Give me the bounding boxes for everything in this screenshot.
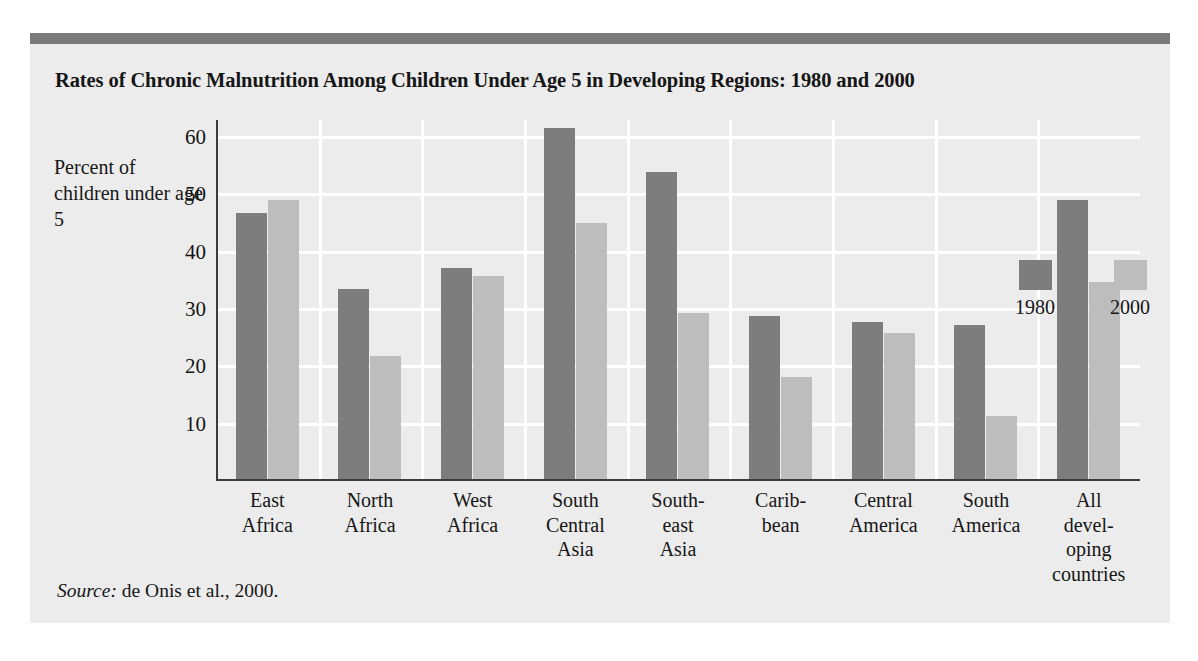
x-axis-category-label-line: All [1037,488,1140,513]
bar-2000 [268,200,299,479]
legend-label: 1980 [995,296,1075,319]
bar-1980 [646,172,677,479]
x-axis-category-label-line: East [216,488,319,513]
bar-1980 [338,289,369,479]
y-axis-tick-label: 10 [162,411,206,436]
x-axis-category-label-line: Asia [627,537,730,562]
source-note: Source: de Onis et al., 2000. [57,580,278,602]
y-axis-tick-label: 40 [162,239,206,264]
bar-group [421,120,524,479]
bar-2000 [370,356,401,479]
legend-entry: 2000 [1090,260,1170,319]
x-axis-category-label-line: South [524,488,627,513]
x-axis-category-label-line: South- [627,488,730,513]
light-gray-swatch [1114,260,1147,290]
x-axis-category-label: NorthAfrica [319,488,422,537]
chart-title: Rates of Chronic Malnutrition Among Chil… [55,69,915,92]
bar-2000 [678,313,709,479]
y-axis-tick-labels: 102030405060 [160,120,206,481]
chart-legend: 19802000 [995,260,1185,330]
source-label: Source: [57,580,117,601]
x-axis-category-label-line: West [421,488,524,513]
y-axis-tick-label: 60 [162,125,206,150]
bar-group [627,120,730,479]
bar-group [524,120,627,479]
x-axis-category-label: Alldevel-opingcountries [1037,488,1140,586]
x-axis-category-label-line: South [935,488,1038,513]
x-axis-category-label: SouthAmerica [935,488,1038,537]
x-axis-category-label-line: Carib- [729,488,832,513]
x-axis-category-label-line: Asia [524,537,627,562]
x-axis-category-label: Carib-bean [729,488,832,537]
bar-2000 [781,377,812,479]
y-axis-tick-label: 20 [162,354,206,379]
bar-1980 [852,322,883,479]
x-axis-category-label-line: Africa [319,513,422,538]
dark-gray-swatch [1019,260,1052,290]
x-axis-category-label-line: east [627,513,730,538]
bar-1980 [1057,200,1088,479]
figure-panel: Rates of Chronic Malnutrition Among Chil… [30,44,1170,623]
x-axis-category-label-line: countries [1037,562,1140,587]
bar-group [729,120,832,479]
x-axis-category-label: WestAfrica [421,488,524,537]
x-axis-category-label-line: devel- [1037,513,1140,538]
x-axis-category-label: EastAfrica [216,488,319,537]
x-axis-category-label-line: Central [832,488,935,513]
bar-2000 [576,223,607,479]
bar-group [319,120,422,479]
legend-entry: 1980 [995,260,1075,319]
x-axis-category-label-line: America [935,513,1038,538]
bar-group [832,120,935,479]
x-axis-category-label-line: North [319,488,422,513]
figure-top-rule [30,33,1170,44]
x-axis-category-label-line: oping [1037,537,1140,562]
bar-1980 [749,316,780,479]
x-axis-category-label-line: America [832,513,935,538]
x-axis-category-label-line: bean [729,513,832,538]
bar-1980 [954,325,985,479]
plot-area: 102030405060 19802000 EastAfricaNorthAfr… [216,120,1140,481]
x-axis-category-label-line: Central [524,513,627,538]
bar-2000 [986,416,1017,479]
legend-label: 2000 [1090,296,1170,319]
x-axis-category-label: CentralAmerica [832,488,935,537]
bar-1980 [236,213,267,479]
bar-group [216,120,319,479]
x-axis-category-label: South-eastAsia [627,488,730,562]
x-axis-line [216,479,1140,481]
y-axis-tick-label: 30 [162,297,206,322]
y-axis-tick-label: 50 [162,182,206,207]
bar-1980 [441,268,472,479]
x-axis-category-label-line: Africa [216,513,319,538]
bar-2000 [473,276,504,479]
figure-container: Rates of Chronic Malnutrition Among Chil… [30,33,1170,623]
bar-1980 [544,128,575,479]
x-axis-category-label: SouthCentralAsia [524,488,627,562]
bar-2000 [884,333,915,479]
x-axis-category-label-line: Africa [421,513,524,538]
source-citation: de Onis et al., 2000. [117,580,278,601]
